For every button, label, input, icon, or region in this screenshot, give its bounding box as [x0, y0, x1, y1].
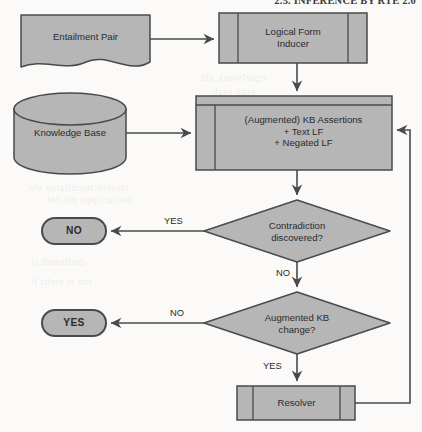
flowchart-figure: rtsenih tnemliatne eht noitacilppa eht r… — [0, 0, 422, 432]
node-kb-assertions — [196, 96, 392, 170]
node-terminal-yes — [42, 310, 106, 336]
node-logical-form-inducer — [219, 13, 367, 63]
node-entailment-pair — [21, 15, 150, 67]
edge-label-contradiction-no: NO — [276, 268, 290, 278]
edge-label-augmented-yes: YES — [263, 361, 282, 371]
edge-label-contradiction-yes: YES — [164, 216, 183, 226]
node-augmented-kb-decision — [204, 292, 390, 354]
running-header: 2.5. INFERENCE BY RTE 2.0 — [274, 0, 416, 5]
node-resolver — [237, 386, 355, 420]
node-terminal-no — [42, 218, 106, 244]
flowchart-canvas — [0, 0, 422, 432]
edge-resolver-feedback — [355, 130, 410, 403]
edge-label-augmented-no: NO — [170, 308, 184, 318]
node-knowledge-base — [14, 93, 126, 174]
node-contradiction-decision — [204, 200, 390, 262]
